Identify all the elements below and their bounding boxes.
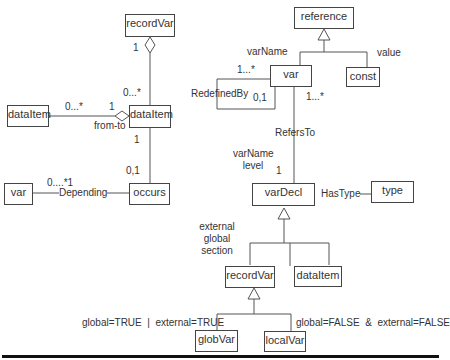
attribute-label: global: [196, 233, 238, 245]
multiplicity-label: 0...*: [123, 87, 141, 99]
association-name-label: Depending: [59, 187, 107, 199]
bottom-rule-divider: [2, 355, 439, 358]
class-localvar: localVar: [264, 331, 306, 352]
class-reference: reference: [294, 7, 354, 29]
attribute-label: varName: [233, 148, 273, 160]
multiplicity-label: 1: [134, 134, 140, 146]
attribute-label: varName: [247, 46, 288, 58]
constraint-label: global=FALSE & external=FALSE: [296, 317, 450, 329]
multiplicity-label: 1...*: [306, 91, 324, 103]
association-name-label: from-to: [94, 120, 126, 132]
multiplicity-label: 1: [133, 42, 139, 54]
class-type: type: [371, 181, 414, 203]
multiplicity-label: 1...*: [237, 64, 255, 76]
constraint-label: global=TRUE | external=TRUE: [82, 317, 224, 329]
attribute-label: section: [196, 245, 238, 257]
class-recordvar-top: recordVar: [125, 14, 175, 37]
multiplicity-label: 1: [276, 165, 282, 177]
association-name-label: RedefinedBy: [191, 88, 248, 100]
class-globvar: globVar: [195, 330, 238, 352]
class-dataitem-left: dataItem: [7, 105, 49, 127]
class-recordvar: recordVar: [225, 266, 275, 288]
attribute-label: level: [233, 160, 273, 172]
class-const: const: [346, 67, 380, 87]
association-name-label: HasType: [321, 188, 360, 200]
multiplicity-label: 0,1: [126, 165, 140, 177]
association-name-label: RefersTo: [275, 127, 315, 139]
multiplicity-label: 1: [109, 101, 115, 113]
class-var-left: var: [4, 183, 33, 205]
attribute-label: value: [377, 47, 401, 59]
multiplicity-label: 0...*: [65, 101, 83, 113]
multiplicity-label: 0,1: [253, 92, 267, 104]
class-dataitem-right: dataItem: [294, 266, 342, 287]
attribute-label: external: [196, 221, 238, 233]
class-vardecl: varDecl: [252, 183, 315, 206]
class-occurs: occurs: [129, 183, 170, 205]
class-var: var: [270, 65, 312, 87]
class-dataitem-center: dataItem: [129, 105, 171, 128]
